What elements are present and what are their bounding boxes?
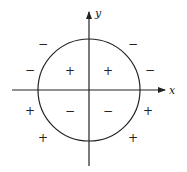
plus-sign-outside-lower-left: + <box>38 131 48 145</box>
minus-sign-inside-lower-right: − <box>103 104 113 118</box>
plus-sign-inside-upper-right: + <box>103 64 113 78</box>
plus-sign-outside-right-below-axis: + <box>143 104 153 118</box>
x-axis-label: x <box>169 84 176 97</box>
minus-sign-outside-upper-right: − <box>128 37 138 51</box>
sign-diagram: x y −−−−++−−++++ <box>0 0 187 172</box>
y-axis-label: y <box>94 7 102 20</box>
minus-sign-outside-right-above-axis: − <box>145 63 155 77</box>
plus-sign-outside-left-below-axis: + <box>25 104 35 118</box>
sign-markers: −−−−++−−++++ <box>25 37 155 145</box>
minus-sign-inside-lower-left: − <box>65 104 75 118</box>
minus-sign-outside-left-above-axis: − <box>25 63 35 77</box>
plus-sign-outside-lower-right: + <box>128 131 138 145</box>
plus-sign-inside-upper-left: + <box>65 64 75 78</box>
minus-sign-outside-upper-left: − <box>38 37 48 51</box>
